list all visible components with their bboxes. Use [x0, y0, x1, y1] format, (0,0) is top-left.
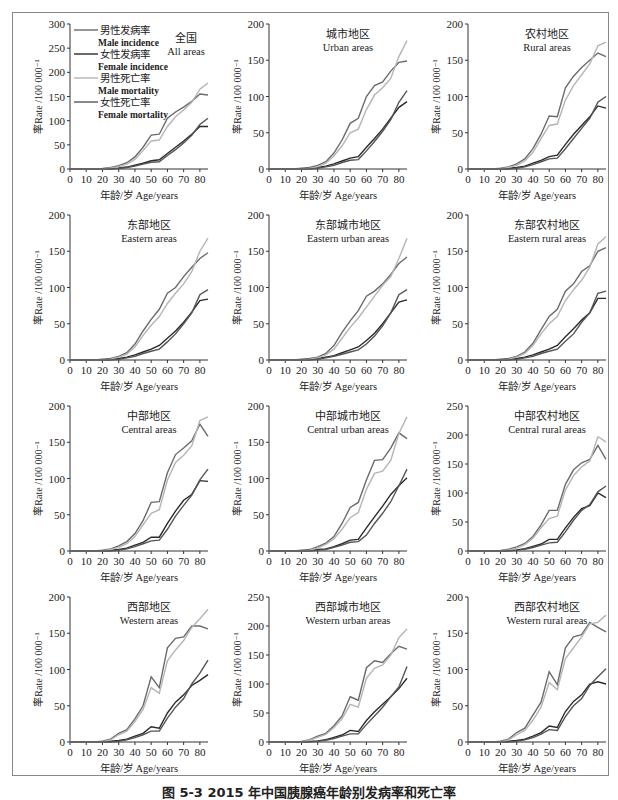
svg-text:20: 20 [97, 746, 109, 758]
svg-text:30: 30 [113, 364, 125, 376]
svg-text:30: 30 [312, 555, 324, 567]
svg-text:80: 80 [194, 173, 206, 185]
svg-text:率Rate /100 000⁻¹: 率Rate /100 000⁻¹ [231, 59, 243, 133]
svg-text:60: 60 [361, 364, 373, 376]
svg-text:率Rate /100 000⁻¹: 率Rate /100 000⁻¹ [32, 59, 44, 133]
svg-text:东部地区: 东部地区 [127, 218, 171, 231]
svg-text:50: 50 [54, 700, 66, 712]
svg-text:率Rate /100 000⁻¹: 率Rate /100 000⁻¹ [430, 250, 442, 324]
svg-text:150: 150 [248, 245, 265, 257]
svg-text:0: 0 [458, 354, 464, 366]
svg-text:年龄/岁 Age/years: 年龄/岁 Age/years [299, 571, 377, 583]
svg-text:0: 0 [67, 173, 73, 185]
svg-text:Central urban areas: Central urban areas [307, 424, 389, 435]
svg-text:80: 80 [194, 364, 206, 376]
svg-text:0: 0 [465, 173, 471, 185]
svg-text:Western rural areas: Western rural areas [507, 615, 588, 626]
svg-text:150: 150 [49, 627, 66, 639]
svg-text:年龄/岁 Age/years: 年龄/岁 Age/years [498, 762, 576, 774]
svg-text:率Rate /100 000⁻¹: 率Rate /100 000⁻¹ [231, 632, 243, 706]
svg-text:10: 10 [479, 746, 491, 758]
svg-text:200: 200 [447, 209, 464, 221]
svg-text:40: 40 [527, 555, 539, 567]
svg-text:10: 10 [81, 173, 93, 185]
svg-text:Female incidence: Female incidence [98, 62, 168, 72]
svg-text:100: 100 [248, 473, 265, 485]
svg-text:150: 150 [447, 54, 464, 66]
svg-text:70: 70 [178, 746, 190, 758]
svg-text:0: 0 [67, 364, 73, 376]
chart-panel-western-urban-areas: 05010015020025001020304050607080率Rate /1… [211, 585, 410, 776]
svg-text:全国: 全国 [175, 31, 197, 44]
svg-text:年龄/岁 Age/years: 年龄/岁 Age/years [498, 380, 576, 392]
svg-text:20: 20 [97, 555, 109, 567]
svg-text:0: 0 [60, 736, 66, 748]
svg-text:女性发病率: 女性发病率 [100, 48, 150, 60]
svg-text:100: 100 [49, 664, 66, 676]
svg-text:20: 20 [495, 173, 507, 185]
svg-text:50: 50 [146, 746, 158, 758]
svg-text:西部城市地区: 西部城市地区 [315, 600, 381, 613]
chart-panel-western-rural-areas: 05010015020001020304050607080率Rate /100 … [410, 585, 609, 776]
svg-text:30: 30 [511, 746, 523, 758]
svg-text:0: 0 [465, 746, 471, 758]
chart-panel-central-areas: 05010015020001020304050607080率Rate /100 … [12, 394, 211, 585]
svg-text:70: 70 [178, 555, 190, 567]
svg-text:Eastern areas: Eastern areas [121, 233, 177, 244]
svg-text:70: 70 [576, 555, 588, 567]
svg-text:60: 60 [560, 173, 572, 185]
svg-text:300: 300 [49, 18, 66, 30]
svg-text:100: 100 [49, 115, 66, 127]
svg-text:30: 30 [312, 746, 324, 758]
svg-text:0: 0 [259, 545, 265, 557]
svg-text:率Rate /100 000⁻¹: 率Rate /100 000⁻¹ [430, 632, 442, 706]
svg-text:60: 60 [361, 173, 373, 185]
svg-text:150: 150 [49, 436, 66, 448]
svg-text:20: 20 [296, 173, 308, 185]
svg-text:80: 80 [592, 364, 604, 376]
svg-text:Western urban areas: Western urban areas [306, 615, 391, 626]
svg-text:50: 50 [253, 127, 265, 139]
svg-text:200: 200 [49, 591, 66, 603]
svg-text:150: 150 [447, 245, 464, 257]
svg-text:农村地区: 农村地区 [525, 27, 569, 40]
svg-text:50: 50 [345, 746, 357, 758]
svg-text:0: 0 [266, 746, 272, 758]
svg-text:50: 50 [146, 555, 158, 567]
svg-text:率Rate /100 000⁻¹: 率Rate /100 000⁻¹ [430, 441, 442, 515]
svg-text:Urban areas: Urban areas [323, 42, 373, 53]
svg-text:率Rate /100 000⁻¹: 率Rate /100 000⁻¹ [32, 632, 44, 706]
svg-text:150: 150 [447, 458, 464, 470]
svg-text:0: 0 [465, 555, 471, 567]
svg-text:60: 60 [162, 364, 174, 376]
svg-text:20: 20 [495, 746, 507, 758]
svg-text:50: 50 [345, 555, 357, 567]
svg-text:10: 10 [81, 746, 93, 758]
svg-text:150: 150 [248, 54, 265, 66]
svg-text:男性死亡率: 男性死亡率 [100, 72, 150, 84]
svg-text:60: 60 [361, 555, 373, 567]
svg-text:200: 200 [49, 400, 66, 412]
svg-text:60: 60 [560, 364, 572, 376]
chart-panel-eastern-urban-areas: 05010015020001020304050607080率Rate /100 … [211, 203, 410, 394]
svg-text:80: 80 [194, 555, 206, 567]
svg-text:Western areas: Western areas [120, 615, 178, 626]
svg-text:150: 150 [49, 91, 66, 103]
svg-text:0: 0 [259, 163, 265, 175]
svg-text:0: 0 [465, 364, 471, 376]
svg-text:40: 40 [328, 746, 340, 758]
svg-text:50: 50 [54, 318, 66, 330]
svg-text:20: 20 [296, 746, 308, 758]
svg-text:50: 50 [452, 700, 464, 712]
svg-text:率Rate /100 000⁻¹: 率Rate /100 000⁻¹ [231, 441, 243, 515]
svg-text:30: 30 [113, 555, 125, 567]
svg-text:0: 0 [458, 736, 464, 748]
svg-text:50: 50 [345, 173, 357, 185]
svg-text:中部农村地区: 中部农村地区 [514, 409, 580, 422]
svg-text:Male mortality: Male mortality [98, 86, 159, 96]
svg-text:年龄/岁 Age/years: 年龄/岁 Age/years [299, 762, 377, 774]
svg-text:100: 100 [447, 664, 464, 676]
svg-text:80: 80 [393, 555, 405, 567]
svg-text:80: 80 [592, 746, 604, 758]
svg-text:30: 30 [511, 173, 523, 185]
